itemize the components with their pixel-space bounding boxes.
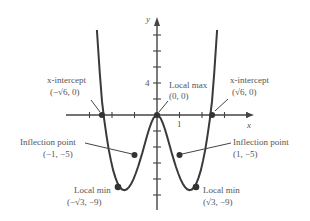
local-min-left-point: [115, 184, 122, 191]
x-intercept-left-point: [99, 112, 105, 118]
local-min-left-title: Local min: [74, 185, 111, 195]
x-intercept-left-coords: (−√6, 0): [50, 87, 80, 97]
local-min-left-coords: (−√3, −9): [67, 197, 102, 207]
x-axis-label: x: [246, 120, 251, 130]
x-intercept-right-coords: (√6, 0): [232, 87, 256, 97]
y-tick-label-4: 4: [145, 78, 150, 88]
graph-canvas: y x 1 4 x-intercept (−√6, 0) Local max (…: [0, 0, 310, 221]
x-intercept-left-title: x-intercept: [47, 75, 86, 85]
local-max-leader: [159, 101, 168, 112]
inflection-right-point: [177, 152, 183, 158]
inflection-left-coords: (−1, −5): [43, 149, 73, 159]
local-max-coords: (0, 0): [169, 91, 189, 101]
local-max-title: Local max: [169, 80, 208, 90]
x-intercept-left-leader: [91, 100, 100, 112]
inflection-left-title: Inflection point: [20, 137, 76, 147]
y-axis-label: y: [145, 14, 150, 24]
local-min-right-title: Local min: [203, 185, 240, 195]
local-max-point: [154, 112, 160, 118]
local-min-right-coords: (√3, −9): [203, 197, 233, 207]
x-intercept-right-point: [209, 112, 215, 118]
inflection-right-title: Inflection point: [233, 137, 289, 147]
inflection-right-coords: (1, −5): [233, 149, 258, 159]
inflection-left-point: [132, 152, 138, 158]
x-intercept-right-leader: [215, 99, 228, 111]
local-min-right-point: [193, 184, 200, 191]
x-tick-label-1: 1: [177, 119, 182, 129]
x-intercept-right-title: x-intercept: [230, 75, 269, 85]
